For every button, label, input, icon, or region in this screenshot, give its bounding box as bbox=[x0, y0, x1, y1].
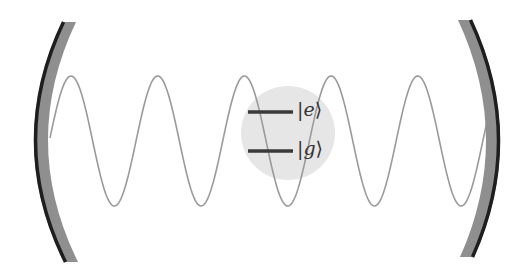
ket-bracket: ⟩ bbox=[315, 98, 322, 120]
ket-bracket: ⟩ bbox=[316, 137, 323, 159]
left-mirror bbox=[34, 22, 78, 262]
ground-state-label: |g⟩ bbox=[297, 139, 323, 158]
right-mirror-coating bbox=[458, 20, 500, 257]
ground-state-symbol: g bbox=[303, 137, 315, 159]
excited-state-symbol: e bbox=[303, 98, 314, 120]
cavity-diagram-canvas bbox=[0, 0, 532, 279]
cavity-diagram: |e⟩ |g⟩ bbox=[0, 0, 532, 279]
excited-state-label: |e⟩ bbox=[297, 100, 322, 119]
right-mirror bbox=[458, 20, 500, 257]
left-mirror-coating bbox=[34, 22, 78, 262]
